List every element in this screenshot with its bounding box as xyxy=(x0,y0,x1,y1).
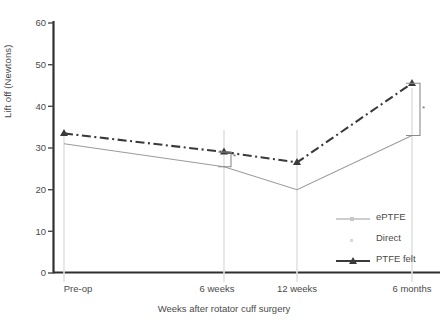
plot-area xyxy=(0,0,448,326)
legend-item-ptfe-felt: PTFE felt xyxy=(335,248,440,269)
series-marker-ptfe-felt-6-months xyxy=(408,79,416,86)
series-line-ptfe-felt xyxy=(64,83,412,162)
significance-star-6-months: * xyxy=(422,104,425,113)
significance-bracket-6-months xyxy=(406,83,420,135)
legend-key-direct-icon xyxy=(335,232,371,244)
legend-key-eptfe-icon xyxy=(335,211,371,223)
significance-star-6-weeks: * xyxy=(233,152,236,161)
legend-label-ptfe-felt: PTFE felt xyxy=(376,253,416,264)
legend-item-eptfe: ePTFE xyxy=(335,206,440,227)
chart-figure: Lift off (Newtons) 60 50 40 30 20 10 0 P… xyxy=(0,0,448,326)
legend-label-direct: Direct xyxy=(376,232,401,243)
series-line-eptfe xyxy=(64,136,412,190)
chart-legend: ePTFE Direct PTFE felt xyxy=(335,206,440,269)
legend-key-ptfe-felt-icon xyxy=(335,253,371,265)
series-marker-ptfe-felt-pre-op xyxy=(60,129,68,136)
legend-label-eptfe: ePTFE xyxy=(376,211,406,222)
legend-item-direct: Direct xyxy=(335,227,440,248)
